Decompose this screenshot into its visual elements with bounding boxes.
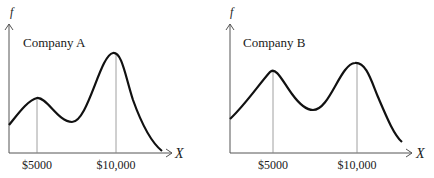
- chart-b-tick-5000: $5000: [258, 159, 288, 171]
- chart-a-x-axis-label: X: [175, 147, 184, 161]
- chart-b-y-axis-label: f: [230, 6, 233, 18]
- chart-b-tick-10000: $10,000: [338, 159, 377, 171]
- chart-a-tick-10000: $10,000: [97, 159, 136, 171]
- chart-b-title: Company B: [243, 36, 305, 49]
- charts-canvas: [0, 0, 434, 178]
- chart-a-title: Company A: [23, 36, 85, 49]
- chart-b-x-axis-label: X: [416, 147, 425, 161]
- chart-b-reference-lines: [273, 64, 357, 153]
- chart-a-y-axis-label: f: [10, 6, 13, 18]
- chart-a-reference-lines: [37, 54, 116, 153]
- chart-a-curve: [9, 53, 162, 151]
- chart-a-tick-5000: $5000: [22, 159, 52, 171]
- chart-b-curve: [230, 63, 402, 142]
